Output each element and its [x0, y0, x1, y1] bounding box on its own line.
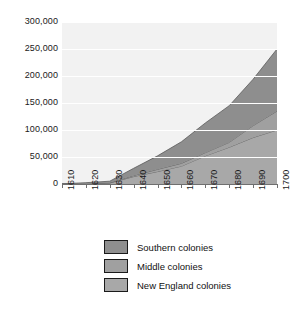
x-axis-tick-label: 1650	[162, 170, 172, 190]
legend-label: Middle colonies	[137, 261, 202, 272]
gridline	[62, 22, 277, 23]
x-axis-tick-label: 1690	[257, 170, 267, 190]
x-axis-tick	[86, 184, 87, 188]
gridline	[62, 130, 277, 131]
x-axis-tick	[253, 184, 254, 188]
x-axis-tick-label: 1680	[233, 170, 243, 190]
x-axis-tick-label: 1620	[90, 170, 100, 190]
x-axis-tick	[181, 184, 182, 188]
x-axis-tick-label: 1700	[281, 170, 291, 190]
chart-legend: Southern coloniesMiddle coloniesNew Engl…	[104, 240, 231, 292]
y-axis-tick-labels: 050,000100,000150,000200,000250,000300,0…	[0, 0, 58, 232]
y-axis-tick-label: 250,000	[2, 44, 58, 53]
x-axis-tick-label: 1670	[209, 170, 219, 190]
legend-label: Southern colonies	[137, 242, 213, 253]
x-axis-tick-label: 1660	[185, 170, 195, 190]
x-axis-tick	[205, 184, 206, 188]
y-axis-tick-label: 200,000	[2, 71, 58, 80]
legend-label: New England colonies	[137, 280, 231, 291]
stacked-area-chart-figure: 050,000100,000150,000200,000250,000300,0…	[0, 0, 297, 320]
y-axis-tick-label: 0	[2, 179, 58, 188]
x-axis-tick	[62, 184, 63, 188]
legend-swatch-icon	[104, 259, 128, 273]
gridline	[62, 76, 277, 77]
x-axis-tick-label: 1630	[114, 170, 124, 190]
x-axis-tick-label: 1610	[66, 170, 76, 190]
x-axis-tick	[110, 184, 111, 188]
legend-swatch-icon	[104, 278, 128, 292]
x-axis-tick	[158, 184, 159, 188]
y-axis-tick-label: 100,000	[2, 125, 58, 134]
plot-area	[62, 22, 277, 184]
gridline	[62, 49, 277, 50]
y-axis-tick-label: 50,000	[2, 152, 58, 161]
gridline	[62, 157, 277, 158]
x-axis-tick-label: 1640	[138, 170, 148, 190]
x-axis-tick	[229, 184, 230, 188]
legend-item: Southern colonies	[104, 240, 231, 254]
y-axis-tick-label: 300,000	[2, 17, 58, 26]
legend-swatch-icon	[104, 240, 128, 254]
legend-item: Middle colonies	[104, 259, 231, 273]
legend-item: New England colonies	[104, 278, 231, 292]
x-axis-tick	[134, 184, 135, 188]
x-axis-tick	[277, 184, 278, 188]
plot-wrapper: 050,000100,000150,000200,000250,000300,0…	[0, 0, 297, 232]
y-axis-tick-label: 150,000	[2, 98, 58, 107]
gridline	[62, 103, 277, 104]
